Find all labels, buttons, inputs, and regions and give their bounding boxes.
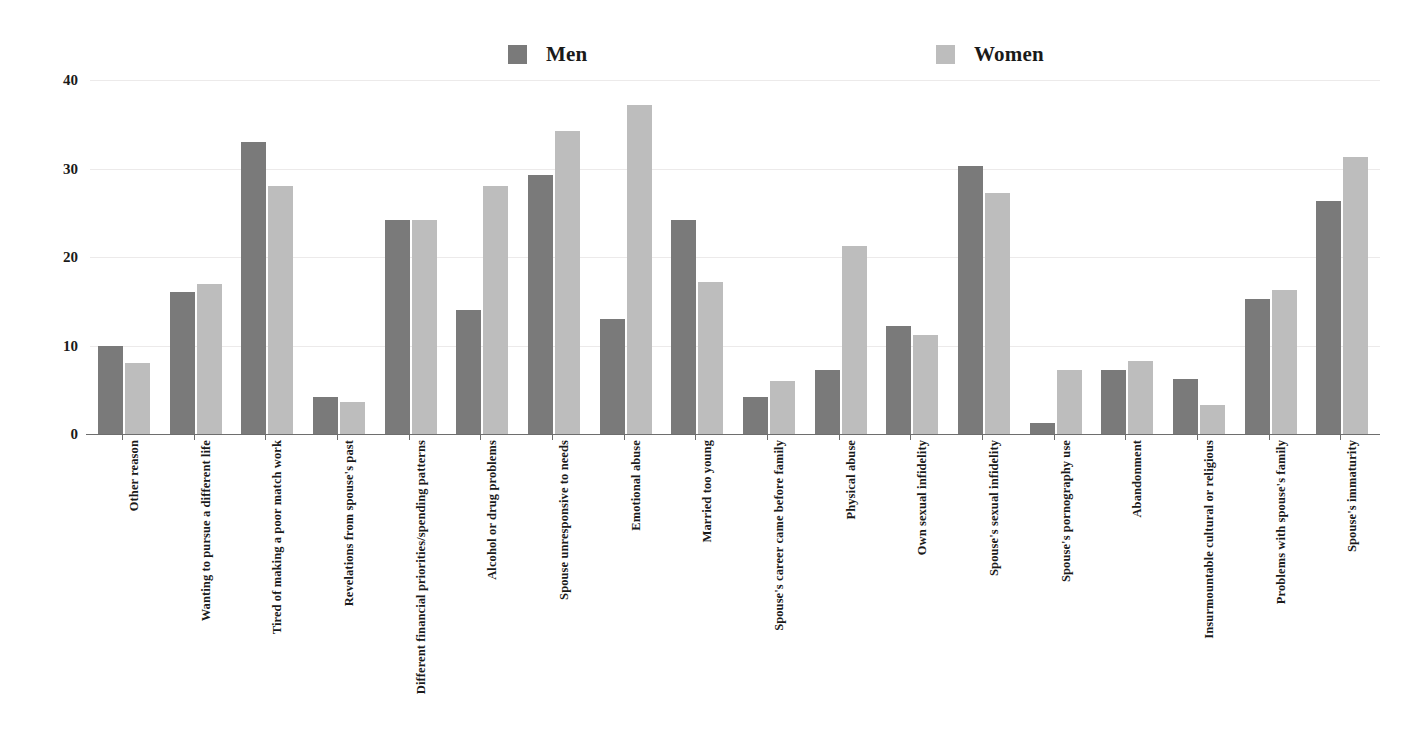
x-axis-label: Spouse unresponsive to needs xyxy=(557,440,572,600)
bar-group xyxy=(1308,80,1380,434)
x-axis-label: Problems with spouse's family xyxy=(1274,440,1289,604)
bar-men xyxy=(1316,201,1341,434)
bar-men xyxy=(958,166,983,434)
bar-women xyxy=(125,363,150,434)
bar-women xyxy=(1272,290,1297,434)
legend-item-men: Men xyxy=(508,42,587,67)
legend-label-women: Women xyxy=(974,42,1044,67)
bar-women xyxy=(627,105,652,434)
bar-men xyxy=(170,292,195,434)
legend-label-men: Men xyxy=(546,42,587,67)
y-tick-label-40: 40 xyxy=(18,72,78,89)
x-axis-label: Wanting to pursue a different life xyxy=(199,440,214,621)
y-tick-label-10: 10 xyxy=(18,337,78,354)
x-axis-labels: Other reasonWanting to pursue a differen… xyxy=(90,440,1380,740)
x-axis-label: Different financial priorities/spending … xyxy=(414,440,429,694)
legend-swatch-women-icon xyxy=(936,45,955,64)
bar-chart: Men Women 010203040 Other reasonWanting … xyxy=(0,0,1402,753)
bar-women xyxy=(555,131,580,434)
bar-group xyxy=(663,80,735,434)
bar-women xyxy=(268,186,293,434)
y-tick-label-20: 20 xyxy=(18,249,78,266)
bar-men xyxy=(671,220,696,434)
bar-group xyxy=(1165,80,1237,434)
bar-group xyxy=(233,80,305,434)
bar-group xyxy=(1237,80,1309,434)
bar-men xyxy=(385,220,410,434)
bar-series-container xyxy=(90,80,1380,434)
x-axis-line xyxy=(86,434,1380,435)
x-axis-label: Alcohol or drug problems xyxy=(485,440,500,580)
x-axis-label: Spouse's immaturity xyxy=(1345,440,1360,552)
bar-men xyxy=(815,370,840,434)
bar-group xyxy=(305,80,377,434)
y-tick-label-0: 0 xyxy=(18,426,78,443)
bar-women xyxy=(340,402,365,434)
bar-women xyxy=(1200,405,1225,434)
bar-group xyxy=(735,80,807,434)
bar-women xyxy=(412,220,437,434)
bar-group xyxy=(377,80,449,434)
bar-women xyxy=(1057,370,1082,434)
x-axis-label: Insurmountable cultural or religious xyxy=(1202,440,1217,639)
x-axis-label: Tired of making a poor match work xyxy=(270,440,285,634)
bar-women xyxy=(913,335,938,434)
x-axis-label: Married too young xyxy=(700,440,715,542)
bar-men xyxy=(1101,370,1126,434)
x-axis-label: Emotional abuse xyxy=(629,440,644,531)
bar-group xyxy=(950,80,1022,434)
bar-group xyxy=(90,80,162,434)
bar-men xyxy=(98,346,123,435)
chart-legend: Men Women xyxy=(0,42,1402,76)
bar-men xyxy=(528,175,553,434)
y-tick-label-30: 30 xyxy=(18,160,78,177)
x-axis-label: Abandonment xyxy=(1130,440,1145,518)
bar-group xyxy=(1022,80,1094,434)
x-axis-label: Spouse's pornography use xyxy=(1059,440,1074,582)
bar-women xyxy=(985,193,1010,434)
bar-women xyxy=(842,246,867,435)
bar-women xyxy=(1343,157,1368,434)
bar-group xyxy=(592,80,664,434)
x-axis-label: Revelations from spouse's past xyxy=(342,440,357,606)
bar-men xyxy=(1245,299,1270,434)
x-axis-label: Own sexual infidelity xyxy=(915,440,930,555)
bar-women xyxy=(770,381,795,434)
bar-men xyxy=(600,319,625,434)
bar-group xyxy=(1093,80,1165,434)
legend-item-women: Women xyxy=(936,42,1044,67)
bar-men xyxy=(1173,379,1198,434)
bar-men xyxy=(1030,423,1055,434)
bar-men xyxy=(241,142,266,434)
plot-area: 010203040 xyxy=(90,80,1380,434)
bar-women xyxy=(698,282,723,434)
bar-women xyxy=(197,284,222,434)
x-axis-label: Physical abuse xyxy=(844,440,859,520)
x-axis-label: Other reason xyxy=(127,440,142,511)
bar-men xyxy=(456,310,481,434)
bar-women xyxy=(1128,361,1153,434)
bar-men xyxy=(313,397,338,434)
bar-men xyxy=(743,397,768,434)
x-axis-label: Spouse's sexual infidelity xyxy=(987,440,1002,576)
bar-group xyxy=(878,80,950,434)
bar-group xyxy=(520,80,592,434)
bar-women xyxy=(483,186,508,434)
bar-men xyxy=(886,326,911,434)
bar-group xyxy=(162,80,234,434)
bar-group xyxy=(807,80,879,434)
legend-swatch-men-icon xyxy=(508,45,527,64)
x-axis-label: Spouse's career came before family xyxy=(772,440,787,631)
bar-group xyxy=(448,80,520,434)
